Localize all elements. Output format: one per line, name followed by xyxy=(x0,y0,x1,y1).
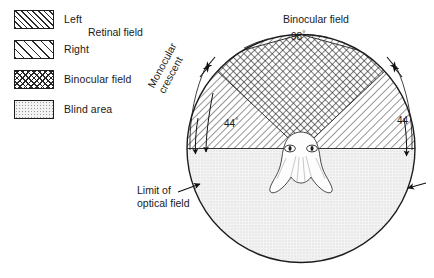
legend-label-binocular: Binocular field xyxy=(64,72,131,86)
binocular-field-label: Binocular field xyxy=(283,13,349,26)
swatch-binocular-icon xyxy=(14,70,54,89)
degree-symbol-right: ° xyxy=(408,113,411,122)
left-angle-label: 44° xyxy=(224,115,238,131)
legend-label-right: Right xyxy=(64,42,89,56)
legend-label-left: Left xyxy=(64,12,82,26)
legend-label-blind: Blind area xyxy=(64,102,112,116)
legend-heading-retinal-field: Retinal field xyxy=(88,26,143,38)
limit-of-optical-field-label: Limit of optical field xyxy=(137,184,190,210)
left-angle-value: 44 xyxy=(224,118,235,129)
binocular-angle-value: 98 xyxy=(291,31,302,42)
binocular-angle-label: 98° xyxy=(291,28,305,44)
limit-line2: optical field xyxy=(137,197,190,210)
lower-right-pointer-arrow xyxy=(408,183,426,188)
swatch-left-icon xyxy=(14,10,54,29)
legend-item-blind: Blind area xyxy=(14,100,174,122)
swatch-blind-icon xyxy=(14,100,54,119)
right-angle-label: 44° xyxy=(397,112,411,128)
limit-line1: Limit of xyxy=(137,184,190,197)
degree-symbol-left: ° xyxy=(235,116,238,125)
swatch-right-icon xyxy=(14,40,54,59)
legend-item-right: Right xyxy=(14,40,174,62)
degree-symbol-98: ° xyxy=(302,29,305,38)
right-angle-value: 44 xyxy=(397,115,408,126)
